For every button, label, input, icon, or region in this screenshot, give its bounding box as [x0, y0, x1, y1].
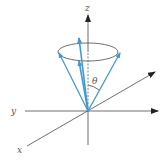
x-axis-label: x	[17, 145, 22, 155]
cone-diagram: z y x θ	[0, 0, 167, 164]
y-axis-label: y	[10, 106, 17, 116]
z-axis-label: z	[84, 3, 90, 13]
theta-label: θ	[92, 76, 98, 86]
x-axis	[27, 72, 155, 146]
